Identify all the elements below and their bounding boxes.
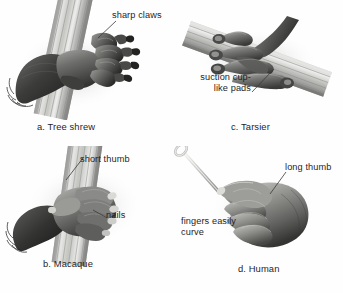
caption-human: d. Human <box>238 263 279 274</box>
callout-sharp-claws: sharp claws <box>112 10 172 21</box>
caption-tree-shrew: a. Tree shrew <box>37 121 95 132</box>
callout-nails: nails <box>106 210 156 221</box>
sharp-claws-leader-line <box>96 20 118 42</box>
panel-tarsier: suction cup- like pads c. Tarsier <box>171 0 343 146</box>
suction-cup-pads-leader-line <box>250 68 276 94</box>
callout-suction-cup-like-pads: suction cup- like pads <box>163 72 251 94</box>
callout-long-thumb: long thumb <box>285 162 343 173</box>
panel-tree-shrew: sharp claws a. Tree shrew <box>0 0 172 146</box>
caption-macaque: b. Macaque <box>43 258 93 269</box>
panel-human: long thumb fingers easily curve d. Human <box>171 146 343 293</box>
tarsier-illustration <box>171 0 343 120</box>
primate-hand-figure: sharp claws a. Tree shrew <box>0 0 343 293</box>
callout-fingers-easily-curve: fingers easily curve <box>181 216 257 238</box>
callout-short-thumb: short thumb <box>80 154 160 165</box>
panel-macaque: short thumb nails b. Macaque <box>0 146 172 293</box>
caption-tarsier: c. Tarsier <box>231 121 270 132</box>
long-thumb-leader-line <box>267 170 289 196</box>
